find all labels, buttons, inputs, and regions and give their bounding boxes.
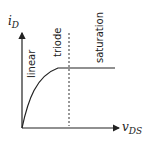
region-label-saturation: saturation	[94, 12, 105, 63]
y-axis-label: iD	[8, 14, 19, 30]
iv-curve-diagram: iD vDS linear triode saturation	[0, 0, 149, 142]
region-label-linear: linear	[26, 49, 37, 78]
region-label-triode: triode	[52, 28, 63, 57]
x-axis-label: vDS	[122, 120, 142, 136]
